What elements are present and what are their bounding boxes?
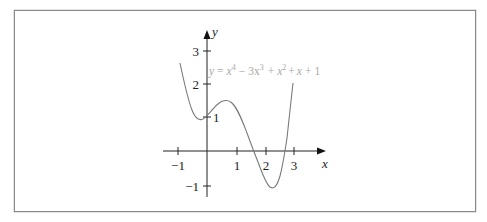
x-tick-label: −1 (171, 158, 185, 173)
x-tick-label: 2 (263, 158, 270, 173)
x-tick-label: 3 (291, 158, 298, 173)
y-tick-label: 3 (193, 44, 200, 59)
y-tick-label: 1 (213, 110, 220, 125)
x-tick-labels: −1 1 2 3 (171, 158, 297, 173)
y-tick-label: 2 (193, 77, 200, 92)
chart-plot: −1 1 2 3 3 2 1 −1 x y y=x4−3x3+x2+x+1 (0, 0, 487, 222)
x-axis-arrow-icon (317, 148, 326, 155)
equation-label: y=x4−3x3+x2+x+1 (208, 63, 320, 78)
y-tick-label: −1 (185, 179, 199, 194)
x-axis-label: x (321, 156, 328, 171)
x-tick-label: 1 (234, 158, 241, 173)
y-axis-label: y (210, 24, 218, 39)
y-axis-arrow-icon (204, 30, 211, 39)
